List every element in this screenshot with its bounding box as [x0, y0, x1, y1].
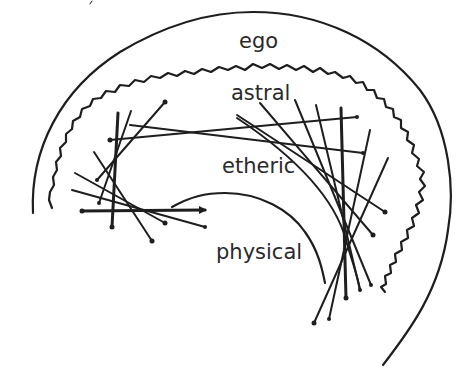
line-end-dot — [163, 100, 168, 105]
line-end-dot — [327, 317, 331, 321]
label-astral: astral — [231, 81, 290, 105]
force-line — [295, 100, 371, 285]
left-force-lines — [72, 100, 207, 244]
force-line — [314, 158, 388, 323]
line-end-dot — [369, 283, 373, 287]
line-end-dot — [358, 288, 362, 292]
line-end-dot — [203, 225, 207, 229]
stray-mark — [90, 1, 92, 4]
line-end-dot — [97, 201, 101, 205]
physical-arc — [172, 193, 325, 283]
line-end-dot — [312, 321, 317, 326]
line-end-dot — [383, 210, 388, 215]
right-force-lines — [237, 100, 388, 326]
line-end-dot — [108, 138, 113, 143]
label-physical: physical — [216, 240, 302, 264]
line-end-dot — [371, 233, 376, 238]
line-end-dot — [95, 178, 99, 182]
ego-outer-arc — [33, 12, 451, 365]
force-line — [130, 125, 363, 153]
line-end-dot — [150, 239, 155, 244]
force-line — [316, 105, 360, 290]
force-line — [75, 173, 165, 223]
line-end-dot — [163, 221, 168, 226]
arrow-head — [199, 206, 207, 214]
line-end-dot — [355, 115, 359, 119]
line-end-dot — [110, 225, 115, 230]
force-line — [82, 210, 205, 211]
line-end-dot — [344, 296, 349, 301]
label-ego: ego — [239, 29, 278, 53]
force-line — [94, 152, 152, 241]
label-etheric: etheric — [222, 154, 295, 178]
member-layers-diagram: ego astral etheric physical — [0, 0, 459, 378]
line-end-dot — [80, 209, 85, 214]
